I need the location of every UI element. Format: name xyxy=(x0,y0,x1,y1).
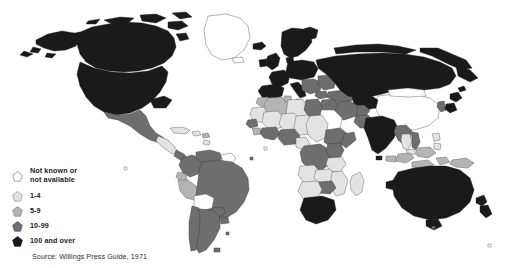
map-legend: Not known or not available 1-4 5-9 xyxy=(12,163,187,249)
legend-label-5-9: 5-9 xyxy=(30,207,41,216)
legend-item-5-9: 5-9 xyxy=(12,204,187,219)
legend-label-10-99: 10-99 xyxy=(30,222,49,231)
legend-item-not-known: Not known or not available xyxy=(12,163,187,189)
legend-item-10-99: 10-99 xyxy=(12,219,187,234)
legend-label-1-4: 1-4 xyxy=(30,192,41,201)
falklands xyxy=(214,248,220,252)
region-kenya-uganda xyxy=(326,143,344,158)
pentagon-swatch-icon xyxy=(12,236,23,247)
figure-world-map: .c0 { fill:#ffffff; stroke:#5a5a5a; stro… xyxy=(0,0,505,268)
pentagon-swatch-icon xyxy=(12,221,23,232)
pentagon-swatch-icon xyxy=(12,191,23,202)
legend-label-100-and-over: 100 and over xyxy=(30,237,75,246)
legend-item-1-4: 1-4 xyxy=(12,189,187,204)
source-note: Source: Willings Press Guide, 1971 xyxy=(32,253,147,261)
legend-label-not-known: Not known or not available xyxy=(30,167,77,184)
region-germany-poland xyxy=(286,60,318,80)
region-mongolia xyxy=(388,88,426,97)
pentagon-swatch-icon xyxy=(12,171,23,182)
legend-item-100-and-over: 100 and over xyxy=(12,234,187,249)
pentagon-swatch-icon xyxy=(12,206,23,217)
region-uruguay xyxy=(220,217,229,224)
